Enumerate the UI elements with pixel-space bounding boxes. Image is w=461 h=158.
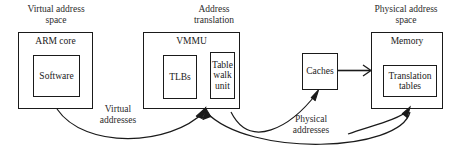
box-vmmu-label: VMMU [144,36,239,47]
box-caches-label: Caches [306,66,333,77]
box-table-walk-unit-label: Table walk unit [212,60,233,92]
box-translation-tables: Translation tables [383,65,437,97]
section-title-virtual-address-space: Virtual address space [10,4,102,25]
flow-label-physical-addresses: Physical addresses [280,114,342,135]
box-table-walk-unit: Table walk unit [210,52,235,99]
arrow-memory-access [348,107,410,134]
box-caches: Caches [302,53,338,90]
box-tlbs-label: TLBs [169,72,191,83]
flow-label-virtual-addresses: Virtual addresses [88,104,148,125]
section-title-physical-address-space: Physical address space [358,4,454,25]
box-software-label: Software [39,71,73,82]
arrow-caches-to-memory [338,65,371,76]
box-translation-tables-label: Translation tables [389,71,432,92]
box-arm-core: ARM core Software [18,32,93,109]
box-memory-label: Memory [372,36,442,47]
address-translation-diagram: Virtual address space Address translatio… [0,0,461,158]
box-vmmu: VMMU TLBs Table walk unit [143,32,240,109]
box-arm-core-label: ARM core [19,36,92,47]
box-tlbs: TLBs [163,55,197,99]
box-software: Software [33,55,80,97]
box-memory: Memory Translation tables [371,32,443,109]
section-title-address-translation: Address translation [168,4,260,25]
